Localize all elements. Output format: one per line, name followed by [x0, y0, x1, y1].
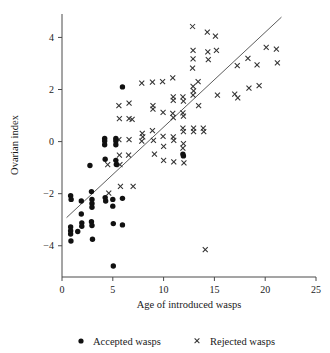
- data-point-accepted: [110, 197, 115, 202]
- data-point-accepted: [120, 222, 125, 227]
- data-point-rejected: [196, 79, 201, 84]
- data-point-rejected: [196, 103, 201, 108]
- x-tick-label: 20: [260, 284, 270, 295]
- data-point-rejected: [171, 98, 176, 103]
- data-point-accepted: [79, 211, 84, 216]
- data-point-accepted: [113, 142, 118, 147]
- y-tick-label: −2: [43, 188, 54, 199]
- data-point-rejected: [117, 153, 122, 158]
- x-tick-label: 5: [110, 284, 115, 295]
- scatter-plot-figure: −4−2024 0510152025 Ovarian index Age of …: [0, 0, 330, 353]
- axes-group: [62, 14, 316, 277]
- data-point-accepted: [79, 198, 84, 203]
- data-point-accepted: [79, 224, 84, 229]
- data-point-rejected: [203, 247, 208, 252]
- data-point-accepted: [87, 163, 92, 168]
- data-point-accepted: [120, 196, 125, 201]
- data-point-rejected: [161, 134, 166, 139]
- legend-label-accepted: Accepted wasps: [93, 336, 161, 347]
- data-point-accepted: [111, 221, 116, 226]
- data-point-rejected: [131, 184, 136, 189]
- data-point-rejected: [127, 137, 132, 142]
- data-point-rejected: [274, 47, 279, 52]
- data-point-rejected: [190, 24, 195, 29]
- data-point-rejected: [150, 80, 155, 85]
- x-axis-title: Age of introduced wasps: [137, 299, 242, 310]
- data-point-rejected: [160, 79, 165, 84]
- data-point-rejected: [116, 103, 121, 108]
- data-point-rejected: [181, 114, 186, 119]
- data-point-rejected: [150, 107, 155, 112]
- data-point-rejected: [235, 63, 240, 68]
- data-point-rejected: [206, 57, 211, 62]
- data-point-rejected: [215, 93, 220, 98]
- data-point-rejected: [171, 138, 176, 143]
- data-point-rejected: [171, 115, 176, 120]
- data-point-rejected: [181, 160, 186, 165]
- series-rejected-wasps: [105, 24, 280, 252]
- data-point-accepted: [68, 197, 73, 202]
- y-tick-label: 4: [49, 32, 54, 43]
- data-point-rejected: [126, 153, 131, 158]
- data-point-accepted: [102, 157, 107, 162]
- data-point-rejected: [106, 191, 111, 196]
- data-point-rejected: [170, 75, 175, 80]
- data-point-accepted: [89, 223, 94, 228]
- data-point-rejected: [246, 86, 251, 91]
- data-point-rejected: [264, 45, 269, 50]
- data-point-accepted: [102, 142, 107, 147]
- data-point-rejected: [150, 128, 155, 133]
- data-point-rejected: [190, 66, 195, 71]
- data-point-rejected: [152, 152, 157, 157]
- data-point-rejected: [161, 144, 166, 149]
- data-point-accepted: [181, 153, 186, 158]
- data-point-rejected: [191, 129, 196, 134]
- y-tick-label: 0: [49, 136, 54, 147]
- data-point-accepted: [89, 205, 94, 210]
- x-tick-label: 0: [60, 284, 65, 295]
- data-point-rejected: [181, 99, 186, 104]
- data-point-rejected: [214, 48, 219, 53]
- data-point-rejected: [118, 184, 123, 189]
- data-point-rejected: [140, 134, 145, 139]
- y-axis-title: Ovarian index: [9, 114, 20, 175]
- data-point-rejected: [191, 93, 196, 98]
- chart-svg: −4−2024 0510152025 Ovarian index Age of …: [0, 0, 330, 353]
- data-point-rejected: [235, 95, 240, 100]
- data-point-accepted: [114, 162, 119, 167]
- data-point-rejected: [161, 110, 166, 115]
- legend-dot-marker: [78, 338, 83, 343]
- x-tick-label: 10: [159, 284, 169, 295]
- data-point-rejected: [255, 62, 260, 67]
- data-point-rejected: [139, 139, 144, 144]
- data-point-rejected: [205, 49, 210, 54]
- y-tick-label: 2: [49, 84, 54, 95]
- data-point-accepted: [89, 189, 94, 194]
- x-axis-ticks: 0510152025: [60, 277, 322, 295]
- y-tick-label: −4: [43, 240, 54, 251]
- data-point-rejected: [205, 30, 210, 35]
- data-point-rejected: [171, 159, 176, 164]
- data-point-rejected: [201, 129, 206, 134]
- legend: Accepted wasps Rejected wasps: [78, 336, 275, 347]
- data-point-accepted: [68, 238, 73, 243]
- data-point-rejected: [181, 129, 186, 134]
- data-point-rejected: [275, 60, 280, 65]
- data-point-rejected: [180, 146, 185, 151]
- data-point-rejected: [191, 56, 196, 61]
- data-point-accepted: [103, 198, 108, 203]
- data-point-accepted: [68, 231, 73, 236]
- series-accepted-wasps: [68, 84, 186, 269]
- x-tick-label: 25: [311, 284, 321, 295]
- data-point-rejected: [191, 48, 196, 53]
- data-point-accepted: [111, 263, 116, 268]
- data-point-rejected: [127, 101, 132, 106]
- data-point-rejected: [245, 56, 250, 61]
- y-axis-ticks: −4−2024: [43, 32, 62, 251]
- data-point-accepted: [90, 237, 95, 242]
- data-point-rejected: [117, 116, 122, 121]
- data-point-rejected: [151, 138, 156, 143]
- data-point-rejected: [139, 81, 144, 86]
- x-tick-label: 15: [209, 284, 219, 295]
- data-point-rejected: [161, 158, 166, 163]
